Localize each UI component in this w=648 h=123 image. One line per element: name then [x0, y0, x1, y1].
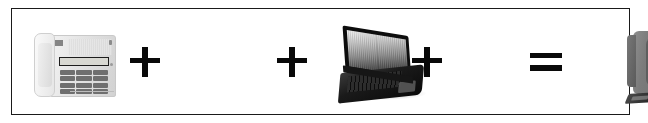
term-camera: DSLR Camera: [445, 9, 541, 114]
plus-operator-2-text: +: [277, 47, 278, 48]
equation-row: Desk Phone + Lapt: [12, 9, 629, 114]
desk-phone-body: [50, 35, 116, 97]
desk-phone-key: [76, 83, 91, 88]
term-desk-phone: Desk Phone: [12, 9, 138, 114]
device-convergence-figure: Desk Phone + Lapt: [0, 0, 648, 123]
plus-operator-3: +: [412, 47, 442, 77]
desk-phone-top-stripe: [68, 39, 112, 55]
equals-bar-bottom: [530, 65, 562, 71]
desk-phone-key: [93, 70, 108, 75]
television-label: CRT Television: [318, 9, 319, 10]
desk-phone-handset: [34, 33, 55, 97]
plus-operator-2: +: [277, 47, 307, 77]
desk-phone-indicator-light: [109, 40, 112, 45]
smartphone-label: Smartphone: [577, 9, 578, 10]
equals-operator: =: [530, 53, 562, 71]
term-television: CRT Television: [318, 9, 422, 114]
camera-label: DSLR Camera: [445, 9, 446, 10]
desk-phone-lcd-display: [59, 57, 109, 66]
desk-phone-key: [60, 76, 75, 81]
plus-operator-1-text: +: [130, 47, 131, 48]
desk-phone-key: [76, 76, 91, 81]
desk-phone-key: [76, 70, 91, 75]
plus-operator-1: +: [130, 47, 160, 77]
figure-frame: Desk Phone + Lapt: [11, 8, 630, 115]
desk-phone-key: [60, 70, 75, 75]
desk-phone-base-line: [70, 91, 114, 93]
laptop-label: Laptop Computer: [172, 9, 173, 10]
desk-phone-key: [93, 83, 108, 88]
desk-phone-icon: [34, 33, 116, 99]
desk-phone-key: [60, 83, 75, 88]
plus-operator-3-text: +: [412, 47, 413, 48]
term-laptop: Laptop Computer: [172, 9, 276, 114]
term-smartphone: Smartphone: [577, 9, 633, 114]
desk-phone-logo: [54, 40, 63, 46]
desk-phone-label: Desk Phone: [12, 9, 13, 10]
desk-phone-key: [93, 76, 108, 81]
equals-bar-top: [530, 53, 562, 59]
desk-phone-status-dot: [110, 63, 113, 66]
